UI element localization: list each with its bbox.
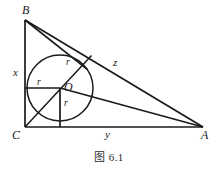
label-center-o: O xyxy=(64,81,73,93)
segment-ab xyxy=(25,20,203,127)
label-side-y: y xyxy=(105,129,110,140)
segment-b-to-tangent xyxy=(25,20,88,70)
geometry-figure: B C A O x y z r r r 图 6.1 xyxy=(0,0,218,170)
label-vertex-b: B xyxy=(22,4,29,16)
label-radius-left: r xyxy=(37,78,41,88)
label-side-z: z xyxy=(113,57,117,68)
label-side-x: x xyxy=(13,67,18,78)
label-vertex-a: A xyxy=(201,129,208,141)
label-radius-bottom: r xyxy=(64,99,68,109)
segment-o-to-a xyxy=(60,88,203,127)
figure-caption: 图 6.1 xyxy=(0,148,218,164)
label-vertex-c: C xyxy=(12,129,20,141)
figure-canvas xyxy=(0,0,218,170)
label-radius-top: r xyxy=(66,58,70,68)
